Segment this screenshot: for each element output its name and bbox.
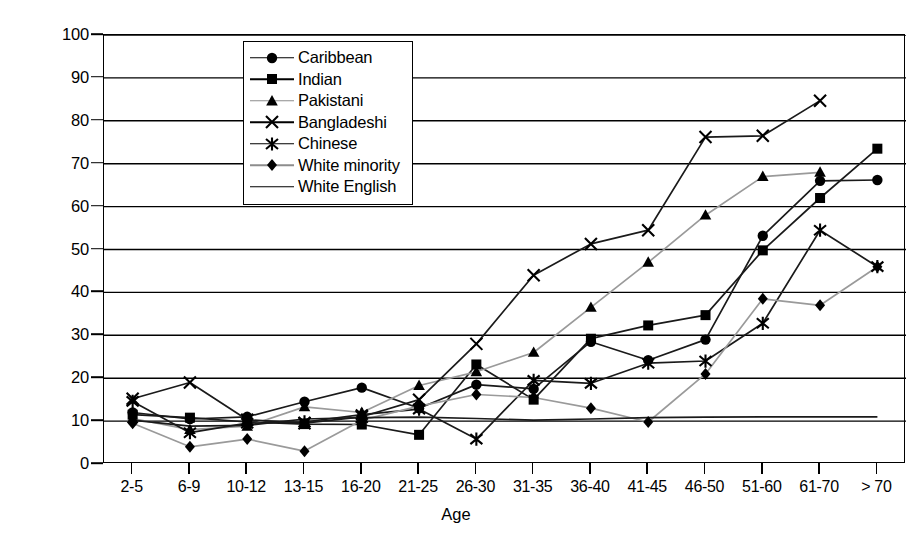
data-point-marker <box>266 95 278 105</box>
x-axis-tick-label: 41-45 <box>627 478 666 496</box>
y-axis-tick <box>91 419 103 421</box>
data-point-marker <box>471 389 481 401</box>
triangle-icon <box>263 92 281 110</box>
x-axis-tick-label: 51-60 <box>742 478 781 496</box>
x-axis-tick <box>303 463 305 474</box>
legend-label: Indian <box>294 69 342 91</box>
legend-item: Caribbean <box>250 47 400 69</box>
x-axis-tick-label: 61-70 <box>799 478 838 496</box>
data-point-marker <box>585 301 597 311</box>
data-point-marker <box>701 310 711 320</box>
data-point-marker <box>267 53 277 63</box>
legend-marker-cross-icon <box>250 112 294 134</box>
x-axis-tick <box>876 463 878 474</box>
data-point-marker <box>127 395 139 408</box>
y-axis-tick-label: 20 <box>71 368 89 387</box>
data-point-marker <box>185 413 195 423</box>
x-axis-tick-label: 21-25 <box>398 478 437 496</box>
x-axis-tick <box>188 463 190 474</box>
legend-item: Bangladeshi <box>250 112 400 134</box>
data-point-marker <box>242 433 252 445</box>
y-axis-tick-label: 90 <box>71 67 89 86</box>
y-axis-tick-label: 40 <box>71 282 89 301</box>
x-axis-title: Age <box>0 505 912 524</box>
y-axis-tick-label: 80 <box>71 110 89 129</box>
x-axis-tick <box>818 463 820 474</box>
legend-label: Pakistani <box>294 90 363 112</box>
data-point-marker <box>528 269 540 281</box>
chart-legend: CaribbeanIndianPakistaniBangladeshiChine… <box>243 41 413 205</box>
data-point-marker <box>872 175 882 185</box>
data-point-marker <box>814 224 826 237</box>
square-icon <box>263 70 281 88</box>
y-axis-tick <box>91 248 103 250</box>
star-icon <box>263 135 281 153</box>
circle-icon <box>263 49 281 67</box>
legend-item: Pakistani <box>250 90 400 112</box>
y-axis-tick-label: 30 <box>71 325 89 344</box>
x-axis-tick <box>245 463 247 474</box>
x-axis-tick-label: 10-12 <box>226 478 265 496</box>
legend-marker-square-icon <box>250 69 294 91</box>
data-point-marker <box>815 176 825 186</box>
data-point-marker <box>471 379 481 389</box>
legend-line <box>250 186 294 188</box>
x-axis-tick-label: 46-50 <box>685 478 724 496</box>
y-axis-tick-label: 50 <box>71 239 89 258</box>
y-axis-tick <box>91 119 103 121</box>
y-axis-tick-label: 70 <box>71 153 89 172</box>
data-point-marker <box>700 209 712 219</box>
legend-label: Bangladeshi <box>294 112 387 134</box>
data-point-marker <box>586 402 596 414</box>
x-axis-tick-label: 16-20 <box>341 478 380 496</box>
data-point-marker <box>700 334 710 344</box>
x-axis-tick-label: 13-15 <box>284 478 323 496</box>
legend-marker-none-icon <box>250 176 294 198</box>
data-point-marker <box>470 433 482 446</box>
legend-item: Chinese <box>250 133 400 155</box>
x-axis-tick <box>417 463 419 474</box>
data-point-marker <box>528 346 540 356</box>
data-point-marker <box>586 334 596 344</box>
data-point-marker <box>642 256 654 266</box>
x-axis-tick <box>646 463 648 474</box>
data-point-marker <box>185 441 195 453</box>
legend-label: White English <box>294 176 396 198</box>
x-axis-tick <box>704 463 706 474</box>
y-axis-tick <box>91 334 103 336</box>
data-point-marker <box>414 430 424 440</box>
legend-marker-diamond-icon <box>250 155 294 177</box>
x-axis-tick <box>589 463 591 474</box>
data-point-marker <box>470 338 482 350</box>
chart-figure: Absolute Percentage 01020304050607080901… <box>0 0 912 550</box>
x-axis-tick-label: 26-30 <box>456 478 495 496</box>
data-point-marker <box>266 137 278 150</box>
cross-icon <box>263 113 281 131</box>
x-axis-tick <box>131 463 133 474</box>
legend-item: Indian <box>250 69 400 91</box>
legend-label: White minority <box>294 155 400 177</box>
data-point-marker <box>815 299 825 311</box>
data-point-marker <box>872 144 882 154</box>
y-axis-tick <box>91 376 103 378</box>
data-point-marker <box>814 95 826 107</box>
legend-item: White English <box>250 176 400 198</box>
data-point-marker <box>585 238 597 250</box>
data-point-marker <box>300 445 310 457</box>
y-axis-tick-label: 0 <box>80 454 89 473</box>
x-axis-tick-label: 2-5 <box>121 478 143 496</box>
legend-item: White minority <box>250 155 400 177</box>
series-canvas <box>104 35 906 464</box>
data-point-marker <box>814 166 826 176</box>
x-axis-tick-label: 31-35 <box>513 478 552 496</box>
x-axis-tick <box>532 463 534 474</box>
x-axis-tick-label: > 70 <box>861 478 891 496</box>
x-axis-tick <box>761 463 763 474</box>
data-point-marker <box>357 382 367 392</box>
legend-marker-circle-icon <box>250 47 294 69</box>
legend-label: Caribbean <box>294 47 372 69</box>
y-axis-tick <box>91 205 103 207</box>
legend-marker-star-icon <box>250 133 294 155</box>
y-axis-tick-label: 100 <box>62 25 89 44</box>
x-axis-tick-label: 36-40 <box>570 478 609 496</box>
